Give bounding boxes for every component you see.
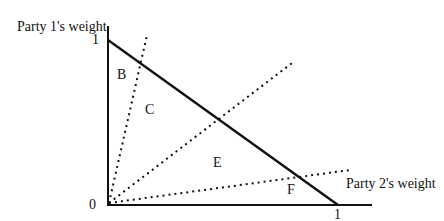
- solid-diagonal-line: [108, 40, 338, 205]
- diagram: Party 1's weight 1 0 1 Party 2's weight …: [0, 0, 444, 221]
- x-axis-label: Party 2's weight: [346, 177, 436, 191]
- region-b-label: B: [117, 68, 126, 82]
- x-tick-1: 1: [334, 208, 341, 221]
- steep-dotted-ray: [109, 35, 147, 203]
- region-c-label: C: [145, 103, 154, 117]
- origin-label: 0: [89, 198, 96, 212]
- region-e-label: E: [213, 156, 222, 170]
- region-f-label: F: [287, 183, 295, 197]
- y-tick-1: 1: [92, 33, 99, 47]
